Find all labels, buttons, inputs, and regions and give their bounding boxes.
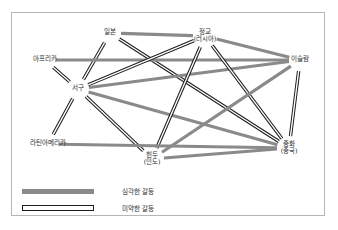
diagram-root: 일본정교(러시아)이슬람아프리카서구라틴아메리카힌두(인도)중화(중국) 심각한… [0,0,338,230]
node-label-islam: 이슬람 [291,56,309,63]
legend-item-serious: 심각한 갈등 [22,186,154,196]
legend-item-weak: 미약한 갈등 [22,203,154,213]
legend-swatch-weak [22,205,94,211]
node-name-west: 서구 [72,84,84,92]
edge-bar-weak-fill [53,99,72,135]
legend-swatch-serious [22,189,94,194]
node-label-hindu: 힌두(인도) [144,152,161,167]
edge-latin-sinic [59,144,277,148]
edge-japan-orthodox [121,33,193,35]
node-label-latin: 라틴아메리카 [30,140,65,147]
node-subname-sinic: (중국) [281,148,298,155]
node-name-japan: 일본 [104,28,116,36]
node-name-islam: 이슬람 [291,55,309,63]
node-label-japan: 일본 [104,29,116,36]
node-name-latin: 라틴아메리카 [30,139,65,147]
edge-bar-weak-fill [53,67,69,81]
edge-bar-serious [217,39,290,57]
edge-orthodox-islam [217,39,290,57]
edge-islam-sinic [290,71,298,136]
node-subname-orthodox: (러시아) [194,36,217,43]
node-label-west: 서구 [72,85,84,92]
edge-bar-serious [164,149,277,158]
legend-label-serious: 심각한 갈등 [122,186,154,196]
edge-bar-serious [59,144,277,148]
edge-bar-weak-fill [290,71,298,136]
edge-west-latin [53,99,72,135]
node-name-africa: 아프리카 [33,55,57,63]
edge-hindu-sinic [164,149,277,158]
node-label-orthodox: 정교(러시아) [194,29,217,44]
node-label-africa: 아프리카 [33,56,57,63]
node-label-sinic: 중화(중국) [281,141,298,156]
edge-bar-serious [121,33,193,35]
legend-label-weak: 미약한 갈등 [122,203,154,213]
edge-africa-west [53,67,69,81]
node-subname-hindu: (인도) [144,159,161,166]
